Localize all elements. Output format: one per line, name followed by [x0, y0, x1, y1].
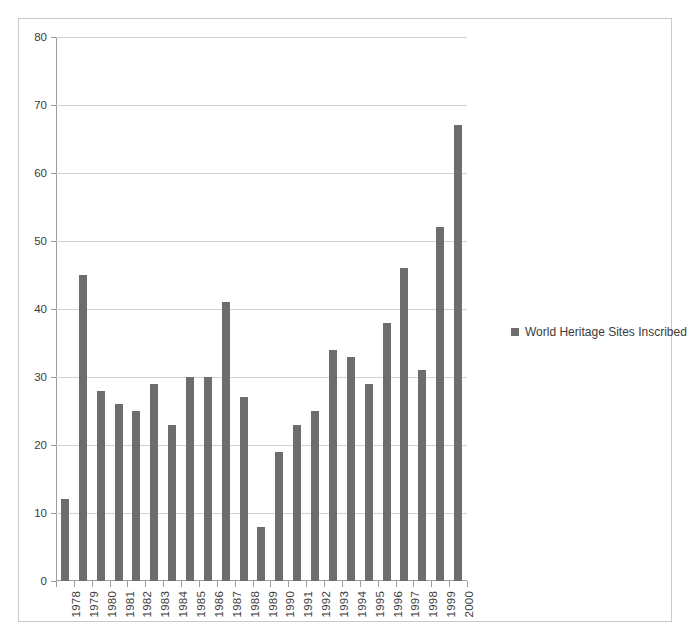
x-axis-tick-label: 1999	[445, 591, 457, 617]
bar-slot	[235, 37, 253, 581]
bar-slot	[324, 37, 342, 581]
bar-slot	[127, 37, 145, 581]
x-axis-tick-label: 1983	[159, 591, 171, 617]
y-axis-tick-label: 0	[41, 575, 47, 587]
x-axis-tick-label: 1987	[231, 591, 243, 617]
x-axis-tick-label: 1995	[374, 591, 386, 617]
bar	[400, 268, 408, 581]
x-axis-tick-label: 1994	[356, 591, 368, 617]
bar-slot	[217, 37, 235, 581]
bar	[383, 323, 391, 581]
x-axis-tick-label: 1996	[392, 591, 404, 617]
x-axis-tick-label: 1989	[267, 591, 279, 617]
bar	[365, 384, 373, 581]
bar-slot	[199, 37, 217, 581]
bar-slot	[92, 37, 110, 581]
x-axis-tick-label: 1986	[213, 591, 225, 617]
bar-slot	[413, 37, 431, 581]
x-axis-tick-label: 1998	[427, 591, 439, 617]
bar	[186, 377, 194, 581]
bar	[329, 350, 337, 581]
bar-slot	[163, 37, 181, 581]
y-axis-tick-label: 50	[34, 235, 47, 247]
x-axis-tick-label: 1985	[195, 591, 207, 617]
bar-slot	[288, 37, 306, 581]
bar	[115, 404, 123, 581]
y-axis-tick-label: 70	[34, 99, 47, 111]
bar	[168, 425, 176, 581]
bar	[79, 275, 87, 581]
x-axis-tick-label: 1984	[177, 591, 189, 617]
bar-slot	[396, 37, 414, 581]
x-axis-tick-label: 1980	[106, 591, 118, 617]
bar-slot	[449, 37, 467, 581]
bar	[150, 384, 158, 581]
bar-slot	[253, 37, 271, 581]
y-axis-tick-label: 20	[34, 439, 47, 451]
bar-slot	[342, 37, 360, 581]
bar-slot	[56, 37, 74, 581]
bar	[222, 302, 230, 581]
x-axis-tick-label: 1978	[70, 591, 82, 617]
y-axis-tick-label: 60	[34, 167, 47, 179]
bar	[61, 499, 69, 581]
chart-frame: 01020304050607080 1978197919801981198219…	[18, 18, 672, 622]
y-axis-tick-label: 80	[34, 31, 47, 43]
x-axis-tick-label: 1988	[249, 591, 261, 617]
x-axis-tick-label: 1993	[338, 591, 350, 617]
bar-slot	[360, 37, 378, 581]
bar-slot	[145, 37, 163, 581]
bar	[293, 425, 301, 581]
bar-slot	[378, 37, 396, 581]
plot-area: 01020304050607080 1978197919801981198219…	[56, 37, 467, 581]
x-axis-tick-label: 1991	[302, 591, 314, 617]
bar	[454, 125, 462, 581]
bar	[97, 391, 105, 581]
x-axis-tick-label: 1981	[124, 591, 136, 617]
x-axis-labels: 1978197919801981198219831984198519861987…	[56, 581, 467, 637]
x-axis-tick	[467, 581, 468, 587]
bar	[418, 370, 426, 581]
bar-slot	[270, 37, 288, 581]
bar	[204, 377, 212, 581]
x-axis-tick-label: 2000	[463, 591, 475, 617]
bar-slot	[110, 37, 128, 581]
bar-slot	[306, 37, 324, 581]
bar	[275, 452, 283, 581]
bar	[257, 527, 265, 581]
x-axis-tick-label: 1997	[409, 591, 421, 617]
x-axis-tick-label: 1990	[284, 591, 296, 617]
y-axis-tick-label: 30	[34, 371, 47, 383]
bar-series	[56, 37, 467, 581]
x-axis-tick-label: 1979	[88, 591, 100, 617]
x-axis-tick-label: 1992	[320, 591, 332, 617]
bar-slot	[431, 37, 449, 581]
legend-label: World Heritage Sites Inscribed	[525, 325, 687, 339]
bar	[347, 357, 355, 581]
bar	[311, 411, 319, 581]
bar-slot	[181, 37, 199, 581]
legend-swatch-icon	[511, 328, 519, 336]
bar-slot	[74, 37, 92, 581]
bar	[240, 397, 248, 581]
legend: World Heritage Sites Inscribed	[511, 325, 687, 339]
y-axis-tick-label: 40	[34, 303, 47, 315]
x-axis-tick-label: 1982	[141, 591, 153, 617]
bar	[436, 227, 444, 581]
bar	[132, 411, 140, 581]
y-axis-tick-label: 10	[34, 507, 47, 519]
